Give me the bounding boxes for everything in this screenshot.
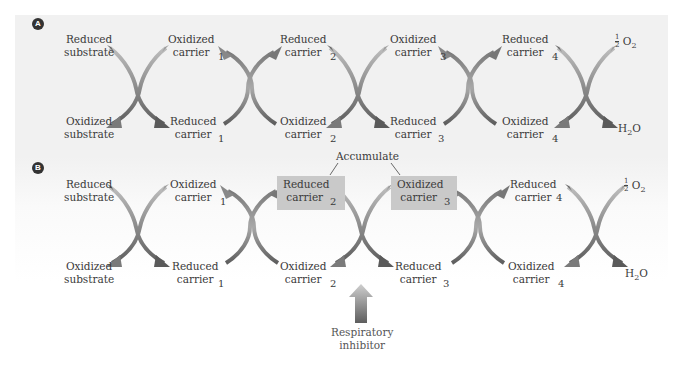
- a-reduced-carrier-2: Reducedcarrier2: [280, 33, 326, 59]
- a-reduced-carrier-1: Reducedcarrier1: [170, 115, 216, 141]
- a-h2o: H2O: [618, 122, 641, 139]
- b-reduced-substrate: Reducedsubstrate: [64, 178, 114, 204]
- b-reduced-carrier-4: Reducedcarrier4: [510, 178, 556, 204]
- panel-b-badge: B: [32, 162, 44, 174]
- a-oxidized-carrier-2: Oxidizedcarrier2: [280, 115, 326, 141]
- b-reduced-carrier-1: Reducedcarrier1: [172, 260, 218, 286]
- a-half-o2: 12 O2: [615, 34, 637, 52]
- accumulate-pointer-right: [391, 163, 400, 175]
- b-oxidized-carrier-2: Oxidizedcarrier2: [280, 260, 326, 286]
- a-reduced-substrate: Reducedsubstrate: [64, 33, 114, 59]
- a-oxidized-substrate: Oxidizedsubstrate: [64, 115, 114, 141]
- b-oxidized-substrate: Oxidizedsubstrate: [64, 260, 114, 286]
- accumulate-pointer-left: [330, 163, 338, 175]
- accumulate-label: Accumulate: [336, 150, 399, 162]
- b-reduced-carrier-2-highlight: Reduced carrier2: [277, 176, 345, 210]
- a-reduced-carrier-3: Reducedcarrier3: [390, 115, 436, 141]
- a-reduced-carrier-4: Reducedcarrier4: [502, 33, 548, 59]
- a-oxidized-carrier-1: Oxidizedcarrier1: [168, 33, 214, 59]
- a-oxidized-carrier-4: Oxidizedcarrier4: [502, 115, 548, 141]
- b-half-o2: 12 O2: [624, 178, 646, 196]
- panel-a-badge: A: [32, 18, 44, 30]
- b-h2o: H2O: [625, 267, 648, 284]
- b-oxidized-carrier-1: Oxidizedcarrier1: [170, 178, 216, 204]
- inhibitor-arrow-icon: [349, 284, 373, 323]
- b-oxidized-carrier-4: Oxidizedcarrier4: [508, 260, 554, 286]
- b-oxidized-carrier-3-highlight: Oxidized carrier3: [391, 176, 457, 210]
- b-reduced-carrier-3: Reducedcarrier3: [395, 260, 441, 286]
- respiratory-inhibitor-label: Respiratoryinhibitor: [331, 326, 393, 352]
- a-oxidized-carrier-3: Oxidizedcarrier3: [390, 33, 436, 59]
